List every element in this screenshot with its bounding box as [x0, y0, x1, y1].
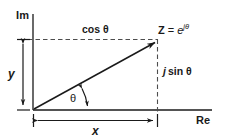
phasor-diagram-figure: Im Re cos θ jsin θ Z=ejθ y x θ	[0, 0, 226, 140]
angle-arc	[82, 89, 88, 107]
phasor-tip-label: Z=ejθ	[158, 23, 189, 36]
phasor-vector-arrow	[34, 43, 155, 110]
jsine-rest-text: sin θ	[168, 65, 192, 77]
phasor-diagram-canvas	[0, 0, 226, 140]
x-dimension-label: x	[92, 125, 99, 137]
phasor-symbol-z: Z	[158, 24, 165, 36]
y-dimension-label: y	[8, 68, 15, 80]
real-axis-label: Re	[196, 115, 210, 126]
cosine-projection-label: cos θ	[82, 24, 109, 35]
phasor-equals-sign: =	[168, 24, 174, 36]
imaginary-axis-label: Im	[16, 10, 29, 21]
phasor-exponent: jθ	[183, 22, 189, 31]
jsine-j-symbol: j	[163, 65, 166, 77]
angle-theta-label: θ	[70, 93, 76, 104]
jsine-projection-label: jsin θ	[163, 66, 192, 77]
